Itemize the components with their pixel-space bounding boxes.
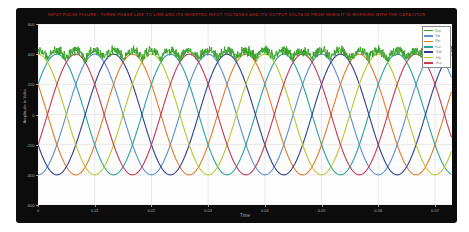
legend-item: -Vca bbox=[424, 60, 449, 65]
y-tick-mark bbox=[36, 205, 38, 206]
legend-item-label: Vout bbox=[435, 29, 441, 33]
x-tick-label: 0.03 bbox=[204, 208, 212, 213]
legend-color-swatch bbox=[424, 57, 433, 59]
waveform-chart bbox=[38, 24, 452, 205]
y-tick-label: -400 bbox=[26, 172, 34, 177]
legend-color-swatch bbox=[424, 51, 433, 53]
y-tick-mark bbox=[36, 115, 38, 116]
legend-item-label: -Vca bbox=[435, 61, 442, 65]
legend-color-swatch bbox=[424, 41, 433, 43]
y-tick-label: 200 bbox=[28, 82, 35, 87]
legend-color-swatch bbox=[424, 46, 433, 48]
y-tick-label: 0 bbox=[32, 112, 34, 117]
legend-item-label: Vbc bbox=[435, 39, 441, 43]
figure-slide: INPUT PULSE FIGURE : THREE PHASE LINE TO… bbox=[16, 8, 457, 223]
y-tick-mark bbox=[36, 175, 38, 176]
y-tick-mark bbox=[36, 54, 38, 55]
legend: VoutVabVbcVca-Vab-Vbc-Vca bbox=[422, 26, 451, 68]
y-tick-mark bbox=[36, 24, 38, 25]
x-tick-label: 0.07 bbox=[431, 208, 439, 213]
legend-item-label: -Vbc bbox=[435, 56, 442, 60]
y-tick-label: 400 bbox=[28, 52, 35, 57]
x-tick-label: 0.02 bbox=[148, 208, 156, 213]
legend-item-label: Vca bbox=[435, 45, 441, 49]
legend-item-label: -Vab bbox=[435, 50, 442, 54]
figure-title: INPUT PULSE FIGURE : THREE PHASE LINE TO… bbox=[24, 12, 449, 17]
x-tick-label: 0 bbox=[37, 208, 39, 213]
y-tick-label: 600 bbox=[28, 22, 35, 27]
y-axis-label: Amplitude in Volts bbox=[22, 27, 27, 187]
y-tick-mark bbox=[36, 145, 38, 146]
legend-color-swatch bbox=[424, 35, 433, 37]
legend-color-swatch bbox=[424, 62, 433, 64]
x-tick-label: 0.06 bbox=[374, 208, 382, 213]
screenshot-canvas: INPUT PULSE FIGURE : THREE PHASE LINE TO… bbox=[0, 0, 469, 232]
plot-area: VoutVabVbcVca-Vab-Vbc-Vca bbox=[38, 24, 452, 205]
x-tick-label: 0.05 bbox=[318, 208, 326, 213]
x-axis-label: Time bbox=[38, 213, 452, 218]
legend-color-swatch bbox=[424, 30, 433, 32]
x-tick-label: 0.04 bbox=[261, 208, 269, 213]
y-tick-label: -600 bbox=[26, 203, 34, 208]
x-tick-label: 0.01 bbox=[91, 208, 99, 213]
y-tick-mark bbox=[36, 84, 38, 85]
legend-item-label: Vab bbox=[435, 34, 440, 38]
y-tick-label: -200 bbox=[26, 142, 34, 147]
